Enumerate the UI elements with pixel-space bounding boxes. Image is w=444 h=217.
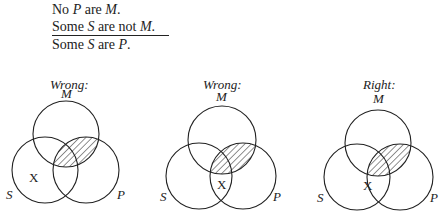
label-m: M [60,86,73,101]
label-m: M [215,89,228,104]
circle-s [324,144,390,210]
label-s: S [6,187,13,202]
label-s: S [160,189,167,204]
caption: Right: [362,77,396,92]
circle-s [12,137,78,203]
venn-diagram-wrong-2: Wrong: M S P X [160,77,281,209]
label-x: X [217,177,227,192]
circle-s [166,143,232,209]
label-p: P [429,190,438,205]
venn-diagram-right: Right: M S P X [317,77,438,210]
label-p: P [116,187,125,202]
label-x: X [29,170,39,185]
venn-diagram-wrong-1: Wrong: M S P X [6,77,125,203]
label-p: P [272,189,281,204]
label-x: X [363,178,373,193]
label-s: S [317,190,324,205]
label-m: M [372,91,385,106]
venn-diagrams: Wrong: M S P X Wrong: M S P X Right: M S… [0,0,444,217]
